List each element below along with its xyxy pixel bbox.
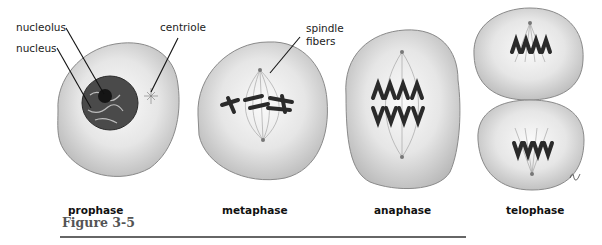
phase-label-metaphase: metaphase — [222, 204, 288, 216]
metaphase-cell — [198, 37, 328, 180]
artist-signature — [570, 174, 580, 180]
nucleus-shape — [82, 76, 138, 130]
anaphase-cell — [346, 30, 460, 189]
label-centriole: centriole — [160, 21, 206, 33]
figure-caption: Figure 3-5 — [62, 215, 135, 230]
caption-rule — [60, 236, 466, 238]
prophase-cell — [57, 28, 179, 176]
mitosis-figure: nucleolus nucleus centriole spindle fibe… — [0, 0, 602, 245]
label-spindle: spindle — [306, 22, 344, 34]
label-fibers: fibers — [306, 35, 336, 47]
nucleolus-shape — [98, 89, 112, 103]
telophase-bottom-cell — [478, 100, 584, 190]
label-nucleus: nucleus — [16, 42, 57, 54]
phase-label-telophase: telophase — [506, 204, 564, 216]
label-nucleolus: nucleolus — [16, 21, 66, 33]
telophase-top-cell — [474, 8, 583, 100]
phase-label-anaphase: anaphase — [374, 204, 431, 216]
